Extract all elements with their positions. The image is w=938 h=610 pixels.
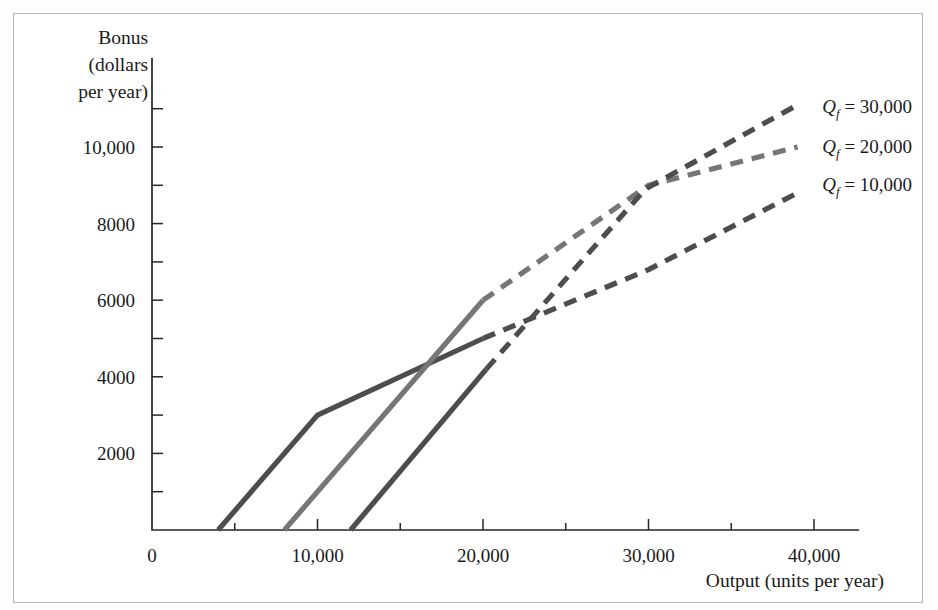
y-axis-title-line: per year): [78, 81, 148, 103]
series-lines: [218, 105, 797, 530]
series-line-solid-2: [351, 369, 487, 530]
figure-root: 200040006000800010,000010,00020,00030,00…: [0, 0, 938, 610]
series-label-2: Qf = 30,000: [822, 96, 912, 121]
y-tick-label: 8000: [97, 214, 135, 235]
series-label-symbol: Q: [822, 174, 836, 195]
bonus-output-chart: 200040006000800010,000010,00020,00030,00…: [0, 0, 938, 610]
axis-titles: Bonus(dollarsper year) Output (units per…: [78, 27, 884, 592]
series-label-value: = 10,000: [840, 174, 912, 195]
series-label-value: = 20,000: [840, 136, 912, 157]
y-axis-title-line: (dollars: [88, 54, 148, 76]
series-label-value: = 30,000: [840, 96, 912, 117]
series-label-symbol: Q: [822, 96, 836, 117]
y-tick-label: 6000: [97, 290, 135, 311]
series-labels: Qf = 10,000Qf = 20,000Qf = 30,000: [822, 96, 912, 200]
series-label-symbol: Q: [822, 136, 836, 157]
y-tick-label: 2000: [97, 443, 135, 464]
series-line-solid-0: [218, 339, 483, 531]
series-label-0: Qf = 10,000: [822, 174, 912, 199]
series-line-dashed-2: [486, 105, 797, 369]
tick-labels: 200040006000800010,000010,00020,00030,00…: [83, 137, 840, 566]
tick-marks: [152, 109, 814, 530]
x-tick-label: 30,000: [622, 545, 674, 566]
x-tick-label: 0: [147, 545, 157, 566]
y-tick-label: 4000: [97, 367, 135, 388]
x-tick-label: 20,000: [457, 545, 509, 566]
y-axis-title-line: Bonus: [98, 27, 148, 48]
series-line-dashed-1: [483, 147, 798, 300]
x-tick-label: 40,000: [788, 545, 840, 566]
y-tick-label: 10,000: [83, 137, 135, 158]
y-axis-title: Bonus(dollarsper year): [78, 27, 148, 103]
x-axis-title: Output (units per year): [706, 570, 884, 592]
x-tick-label: 10,000: [291, 545, 343, 566]
series-label-1: Qf = 20,000: [822, 136, 912, 161]
